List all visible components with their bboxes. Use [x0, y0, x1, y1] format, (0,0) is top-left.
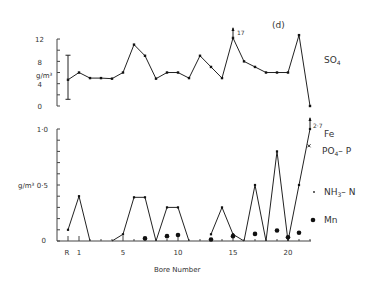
legend-po4: PO4– P	[322, 146, 352, 157]
so4-label: SO4	[324, 55, 341, 66]
x-tick-label: 10	[174, 249, 183, 257]
top-ytick-12: 12	[35, 36, 44, 44]
legend-mn-marker	[311, 218, 316, 223]
top-ytick-4: 4	[38, 81, 43, 89]
x-tick-label: R	[65, 249, 70, 257]
x-tick-label: 15	[229, 249, 238, 257]
bottom-y-unit: g/m³	[18, 182, 35, 190]
arrow-27-label: 2·7	[313, 122, 323, 129]
top-y-unit: g/m³	[36, 72, 53, 80]
panel-label: (d)	[272, 20, 285, 30]
legend: Fe PO4– P NH3– N Mn	[311, 129, 356, 225]
legend-nh3: NH3– N	[324, 187, 355, 198]
bot-ytick-10: 1·0	[37, 126, 48, 134]
bot-ytick-0: 0	[42, 237, 46, 245]
chart-svg: g/m³ 0 4 8 12 (d) SO4 17 0 0·5 1·0 g/m³ …	[0, 0, 375, 283]
legend-mn: Mn	[324, 215, 337, 225]
x-tick-labels: R15101520	[65, 249, 293, 257]
top-ytick-8: 8	[38, 59, 42, 67]
bot-ytick-05: 0·5	[37, 182, 48, 190]
x-tick-label: 1	[77, 249, 81, 257]
x-axis-label: Bore Number	[154, 266, 201, 274]
top-ytick-0: 0	[38, 103, 42, 111]
legend-nh3-marker	[313, 191, 315, 193]
chart-figure: g/m³ 0 4 8 12 (d) SO4 17 0 0·5 1·0 g/m³ …	[0, 0, 375, 283]
so4-series	[66, 27, 312, 107]
legend-fe: Fe	[324, 129, 335, 139]
bottom-series	[67, 117, 312, 242]
x-tick-label: 5	[121, 249, 125, 257]
x-tick-label: 20	[284, 249, 293, 257]
top-y-axis	[57, 39, 60, 106]
arrow-17-label: 17	[237, 29, 245, 36]
